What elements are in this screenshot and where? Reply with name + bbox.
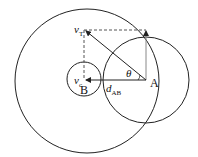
theta-label: θ — [126, 68, 131, 79]
large-circle — [15, 9, 159, 153]
theta-arc — [138, 75, 140, 80]
diagram-canvas — [0, 0, 198, 157]
vt-label: vT — [74, 24, 83, 38]
point-a-label: A — [150, 77, 159, 89]
point-b-label: B — [80, 84, 88, 96]
dab-label: dAB — [106, 83, 121, 97]
